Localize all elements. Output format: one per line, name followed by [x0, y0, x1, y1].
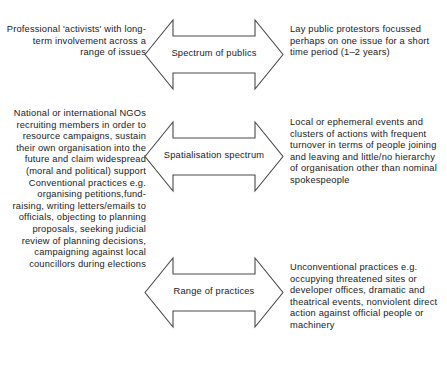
- arrow-label-spatialisation-spectrum: Spatialisation spectrum: [144, 150, 284, 162]
- double-arrow-spectrum-of-publics: Spectrum of publics: [144, 16, 284, 93]
- spectrum-diagram: Professional 'activists' with long-term …: [0, 0, 447, 366]
- double-arrow-spatialisation-spectrum: Spatialisation spectrum: [144, 118, 284, 195]
- double-arrow-range-of-practices: Range of practices: [144, 254, 284, 331]
- arrow-label-spectrum-of-publics: Spectrum of publics: [144, 48, 284, 60]
- right-description-spectrum-of-publics: Lay public protestors focussed perhaps o…: [290, 24, 445, 59]
- right-description-spatialisation-spectrum: Local or ephemeral events and clusters o…: [290, 117, 445, 187]
- left-description-spectrum-of-publics: Professional 'activists' with long-term …: [6, 24, 146, 59]
- right-description-range-of-practices: Unconventional practices e.g. occupying …: [290, 262, 445, 332]
- arrow-label-range-of-practices: Range of practices: [144, 286, 284, 298]
- left-description-spatialisation-spectrum: National or international NGOs recruitin…: [6, 108, 146, 270]
